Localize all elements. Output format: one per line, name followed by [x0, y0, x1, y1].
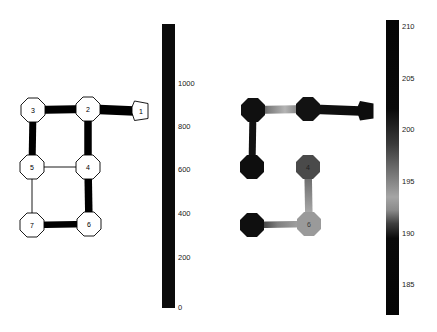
right-colorbar-tick-label-1: 205 — [402, 74, 415, 83]
right-colorbar[interactable]: 210 205 200 195 190 185 — [386, 20, 415, 315]
right-colorbar-bar — [386, 20, 399, 315]
right-node-4-label: 4 — [306, 164, 310, 171]
right-node-3-shape — [241, 98, 265, 122]
right-node-7[interactable] — [240, 213, 264, 237]
left-colorbar-tick-label-0: 1000 — [178, 79, 195, 88]
right-colorbar-tick-label-3: 195 — [402, 177, 415, 186]
left-node-5[interactable]: 5 — [20, 155, 44, 179]
left-colorbar-bar — [162, 24, 175, 308]
left-node-2-label: 2 — [86, 106, 90, 113]
right-node-5[interactable] — [240, 155, 264, 179]
right-colorbar-ticks: 210 205 200 195 190 185 — [402, 22, 415, 289]
left-colorbar-tick-label-1: 800 — [178, 122, 191, 131]
figure-canvas: 3 2 1 5 4 — [0, 0, 437, 332]
left-node-6-label: 6 — [87, 221, 91, 228]
right-node-6[interactable]: 6 — [297, 212, 321, 236]
right-colorbar-tick-label-4: 190 — [402, 229, 415, 238]
left-node-7[interactable]: 7 — [20, 213, 44, 237]
panel-right-node-grayscale: 4 6 210 205 200 195 190 — [220, 0, 437, 332]
left-colorbar[interactable]: 1000 800 600 400 200 0 — [162, 24, 195, 312]
left-colorbar-tick-label-5: 0 — [178, 303, 182, 312]
left-node-1-label: 1 — [139, 108, 143, 115]
left-node-6[interactable]: 6 — [77, 212, 101, 236]
left-node-4-label: 4 — [86, 164, 90, 171]
right-node-7-shape — [240, 213, 264, 237]
left-node-4[interactable]: 4 — [76, 155, 100, 179]
left-node-3-label: 3 — [31, 107, 35, 114]
left-node-2[interactable]: 2 — [76, 97, 100, 121]
left-node-3[interactable]: 3 — [21, 98, 45, 122]
left-colorbar-tick-label-3: 400 — [178, 209, 191, 218]
right-node-1-shape — [358, 101, 374, 121]
right-node-2[interactable] — [296, 97, 320, 121]
right-node-1[interactable] — [358, 101, 374, 121]
right-node-4[interactable]: 4 — [296, 155, 320, 179]
panel-left-edge-width: 3 2 1 5 4 — [0, 0, 220, 332]
left-colorbar-ticks: 1000 800 600 400 200 0 — [178, 79, 195, 313]
right-node-2-shape — [296, 97, 320, 121]
right-node-6-label: 6 — [307, 221, 311, 228]
right-colorbar-tick-label-5: 185 — [402, 280, 415, 289]
right-node-3[interactable] — [241, 98, 265, 122]
right-node-group: 4 6 — [240, 97, 374, 237]
left-panel-svg: 3 2 1 5 4 — [0, 0, 220, 332]
right-panel-svg: 4 6 210 205 200 195 190 — [220, 0, 437, 332]
left-node-1[interactable]: 1 — [132, 101, 148, 121]
left-colorbar-tick-label-4: 200 — [178, 253, 191, 262]
right-colorbar-tick-label-2: 200 — [402, 125, 415, 134]
left-colorbar-tick-label-2: 600 — [178, 165, 191, 174]
left-node-group: 3 2 1 5 4 — [20, 97, 148, 237]
left-node-7-label: 7 — [30, 222, 34, 229]
right-colorbar-tick-label-0: 210 — [402, 22, 415, 31]
left-node-5-label: 5 — [30, 164, 34, 171]
right-node-5-shape — [240, 155, 264, 179]
